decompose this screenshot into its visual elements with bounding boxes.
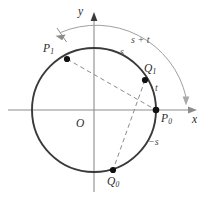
diagram-canvas (0, 0, 215, 202)
origin-label: O (76, 118, 84, 130)
point-label-q1-base: Q (144, 62, 152, 74)
outer-arc-s-plus-t (56, 25, 190, 105)
point-label-q1: Q1 (144, 63, 156, 76)
point-p1-dot (64, 56, 70, 62)
point-label-q0: Q0 (107, 176, 119, 189)
arc-label-s-plus-t: s + t (131, 35, 149, 45)
y-axis (91, 12, 98, 192)
outer-arc-end-arrowhead (183, 97, 190, 106)
point-label-p1-sub: 1 (50, 47, 54, 56)
point-label-q1-sub: 1 (153, 67, 157, 76)
point-label-p0: P0 (161, 113, 172, 126)
arc-label-s: s (120, 47, 124, 57)
point-label-p1-base: P (43, 42, 50, 54)
y-axis-arrowhead (91, 12, 98, 21)
arc-label-t: t (155, 83, 158, 93)
point-p0-dot (153, 107, 160, 114)
chord-p1-p0 (67, 59, 156, 110)
point-label-q0-base: Q (107, 175, 115, 187)
point-label-p1: P1 (43, 43, 54, 56)
point-label-q0-sub: 0 (116, 180, 120, 189)
arc-label-minus-s: −s (148, 137, 159, 147)
point-q1-dot (142, 77, 148, 83)
x-axis-label: x (192, 114, 197, 126)
outer-arc-path (61, 25, 187, 97)
point-label-p0-sub: 0 (168, 117, 172, 126)
unit-circle-diagram: y x O P1 Q1 P0 Q0 s + t s t −s (0, 0, 215, 202)
point-q0-dot (110, 167, 116, 173)
point-label-p0-base: P (161, 112, 168, 124)
y-axis-label: y (78, 6, 83, 18)
chord-q1-q0 (113, 80, 145, 170)
